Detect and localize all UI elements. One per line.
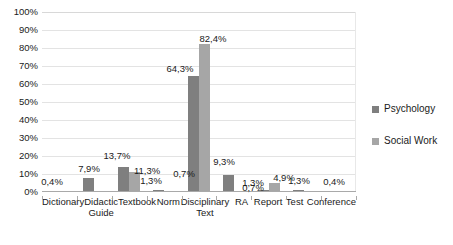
x-axis-category-label: Dictionary bbox=[42, 196, 84, 236]
y-axis-tick-label: 30% bbox=[19, 133, 38, 143]
x-axis: DictionaryDidacticGuideTextbookNormDisci… bbox=[42, 196, 356, 236]
y-axis-tick-label: 60% bbox=[19, 79, 38, 89]
x-axis-category-label: Conference bbox=[307, 196, 356, 236]
x-axis-category-line: Textbook bbox=[118, 196, 156, 207]
bar-group bbox=[321, 12, 356, 192]
x-axis-category-line: Guide bbox=[84, 207, 118, 218]
legend-swatch-icon bbox=[372, 106, 379, 113]
bar-group-bars bbox=[42, 12, 77, 192]
x-axis-tick-mark bbox=[356, 196, 357, 200]
data-label: 0,4% bbox=[323, 177, 345, 187]
bar-group bbox=[42, 12, 77, 192]
x-axis-tick-mark bbox=[251, 196, 252, 200]
bar-group-bars bbox=[321, 12, 356, 192]
y-axis-tick-label: 20% bbox=[19, 151, 38, 161]
data-label: 7,9% bbox=[78, 164, 100, 174]
bar-group-bars bbox=[251, 12, 286, 192]
x-axis-tick-mark bbox=[147, 196, 148, 200]
legend-item[interactable]: Psychology bbox=[372, 104, 452, 114]
data-label: 82,4% bbox=[200, 34, 227, 44]
y-axis-tick-label: 100% bbox=[14, 7, 38, 17]
x-axis-tick-mark bbox=[112, 196, 113, 200]
data-label: 9,3% bbox=[213, 157, 235, 167]
x-axis-category-label: Report bbox=[254, 196, 283, 236]
x-axis-tick-mark bbox=[321, 196, 322, 200]
y-axis-tick-label: 80% bbox=[19, 43, 38, 53]
y-axis-tick-label: 70% bbox=[19, 61, 38, 71]
legend-item-label: Social Work bbox=[384, 136, 437, 146]
data-label: 1,3% bbox=[140, 176, 162, 186]
x-axis-category-line: Report bbox=[254, 196, 283, 207]
x-axis-tick-mark bbox=[42, 196, 43, 200]
data-label: 13,7% bbox=[104, 151, 131, 161]
x-axis-tick-mark bbox=[216, 196, 217, 200]
x-axis-baseline bbox=[42, 191, 356, 192]
x-axis-category-label: DidacticGuide bbox=[84, 196, 118, 236]
x-axis-tick-mark bbox=[182, 196, 183, 200]
x-axis-category-line: Conference bbox=[307, 196, 356, 207]
x-axis-category-label: Textbook bbox=[118, 196, 156, 236]
x-axis-tick-mark bbox=[77, 196, 78, 200]
x-axis-category-line: Disciplinary bbox=[181, 196, 230, 207]
chart-legend: PsychologySocial Work bbox=[372, 104, 452, 168]
x-axis-tick-mark bbox=[286, 196, 287, 200]
data-label: 1,3% bbox=[242, 178, 264, 188]
bar-group bbox=[286, 12, 321, 192]
data-label: 0,4% bbox=[41, 177, 63, 187]
x-axis-category-line: Norm bbox=[156, 196, 181, 207]
x-axis-category-label: Test bbox=[282, 196, 307, 236]
data-label: 1,3% bbox=[288, 176, 310, 186]
data-label: 64,3% bbox=[167, 64, 194, 74]
data-label: 0,7% bbox=[173, 169, 195, 179]
legend-item[interactable]: Social Work bbox=[372, 136, 452, 146]
y-axis: 100%90%80%70%60%50%40%30%20%10%0% bbox=[0, 0, 42, 200]
bar-social-work[interactable] bbox=[199, 44, 210, 192]
legend-item-label: Psychology bbox=[384, 104, 435, 114]
y-axis-tick-label: 0% bbox=[24, 187, 38, 197]
bar-psychology[interactable] bbox=[118, 167, 129, 192]
legend-swatch-icon bbox=[372, 138, 379, 145]
x-axis-category-label: Norm bbox=[156, 196, 181, 236]
y-axis-tick-label: 90% bbox=[19, 25, 38, 35]
y-axis-tick-label: 40% bbox=[19, 115, 38, 125]
y-axis-tick-label: 50% bbox=[19, 97, 38, 107]
bar-chart: 100%90%80%70%60%50%40%30%20%10%0% 0,4%7,… bbox=[0, 0, 453, 245]
bar-group-bars bbox=[286, 12, 321, 192]
x-axis-category-label: DisciplinaryText bbox=[181, 196, 230, 236]
bar-psychology[interactable] bbox=[83, 178, 94, 192]
plot-area: 0,4%7,9%13,7%11,3%1,3%0,7%64,3%82,4%9,3%… bbox=[42, 12, 356, 192]
x-axis-category-label: RA bbox=[229, 196, 254, 236]
y-axis-tick-label: 10% bbox=[19, 169, 38, 179]
x-axis-category-line: Text bbox=[181, 207, 230, 218]
plot-right-border bbox=[355, 12, 356, 192]
bar-group bbox=[251, 12, 286, 192]
bar-psychology[interactable] bbox=[223, 175, 234, 192]
